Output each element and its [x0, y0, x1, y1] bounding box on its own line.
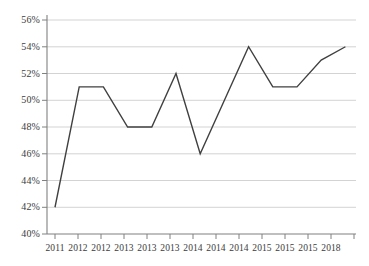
- y-tick-label-56: 56%: [0, 14, 40, 25]
- gridlines-horizontal: [47, 20, 356, 207]
- x-tick-label-12: 2018: [316, 243, 346, 253]
- y-axis-ticks: [42, 20, 47, 234]
- y-tick-label-42: 42%: [0, 201, 40, 212]
- y-tick-label-48: 48%: [0, 121, 40, 132]
- line-chart: 56% 54% 52% 50% 48% 46% 44% 42% 40% 2011…: [0, 0, 369, 266]
- y-tick-label-52: 52%: [0, 68, 40, 79]
- y-tick-label-44: 44%: [0, 175, 40, 186]
- y-tick-label-50: 50%: [0, 94, 40, 105]
- chart-plot-area: [0, 0, 369, 266]
- y-tick-label-54: 54%: [0, 41, 40, 52]
- y-tick-label-40: 40%: [0, 228, 40, 239]
- x-axis-ticks: [55, 234, 354, 239]
- y-tick-label-46: 46%: [0, 148, 40, 159]
